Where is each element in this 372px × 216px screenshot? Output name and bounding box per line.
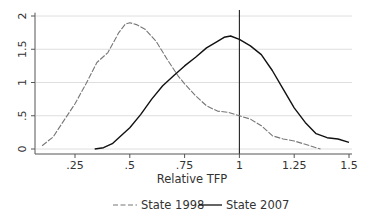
y-tick-label: 1.5 (16, 41, 29, 59)
density-chart: 0.511.52 .25.5.7511.251.5 Relative TFP S… (0, 0, 372, 216)
x-axis-ticks: .25.5.7511.251.5 (66, 154, 358, 172)
legend-label-state-2007: State 2007 (226, 198, 289, 212)
x-tick-label: .5 (125, 159, 136, 172)
legend-label-state-1998: State 1998 (141, 198, 204, 212)
x-tick-label: .25 (66, 159, 84, 172)
series-group (42, 23, 349, 149)
x-axis-title: Relative TFP (157, 172, 228, 186)
series-state-2007 (95, 36, 349, 149)
series-state-1998 (42, 23, 320, 149)
x-tick-label: 1.25 (282, 159, 307, 172)
axes (35, 13, 352, 154)
y-tick-label: 2 (16, 13, 29, 20)
x-tick-label: 1.5 (340, 159, 358, 172)
y-tick-label: 1 (16, 79, 29, 86)
gridlines (36, 16, 352, 149)
y-tick-label: .5 (16, 111, 29, 122)
y-tick-label: 0 (16, 146, 29, 153)
x-tick-label: 1 (236, 159, 243, 172)
y-axis-ticks: 0.511.52 (16, 13, 35, 153)
x-tick-label: .75 (176, 159, 194, 172)
legend: State 1998 State 2007 (113, 198, 289, 212)
